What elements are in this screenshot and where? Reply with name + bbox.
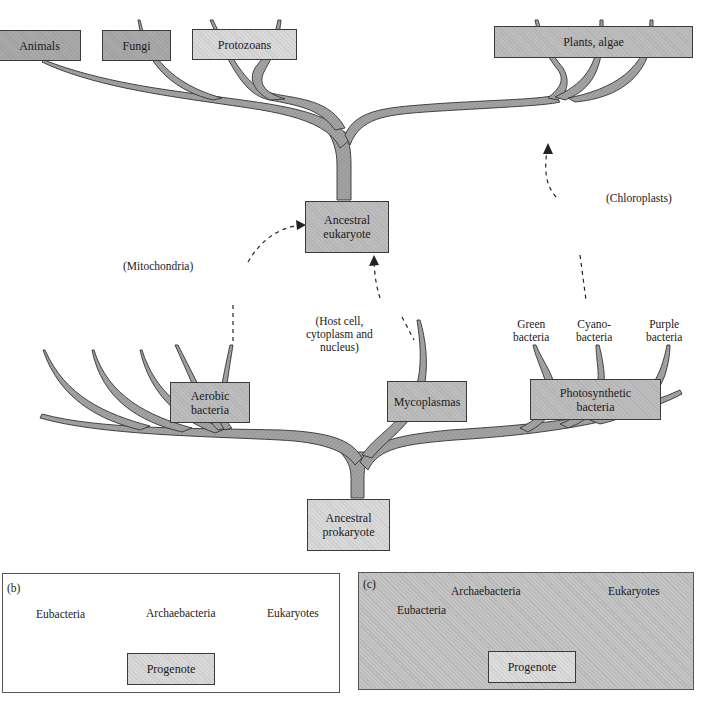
- ancestral-eukaryote-line2: eukaryote: [323, 227, 370, 241]
- host-cell-line1: (Host cell,: [306, 315, 373, 328]
- purple-bacteria-line1: Purple: [646, 318, 682, 331]
- photosynthetic-line2: bacteria: [577, 400, 615, 414]
- photosynthetic-line1: Photosynthetic: [560, 386, 631, 400]
- chloroplasts-label: (Chloroplasts): [606, 192, 672, 205]
- panel-b-tag: (b): [7, 582, 20, 594]
- animals-label: Animals: [19, 39, 60, 53]
- host-cell-line3: nucleus): [306, 341, 373, 354]
- green-bacteria-line2: bacteria: [513, 331, 549, 344]
- box-fungi: Fungi: [102, 30, 171, 61]
- aerobic-line2: bacteria: [191, 403, 229, 417]
- cyanobacteria-line2: bacteria: [576, 331, 612, 344]
- box-protozoans: Protozoans: [192, 29, 297, 60]
- ancestral-prokaryote-line2: prokaryote: [323, 525, 375, 539]
- panel-b-archaebacteria: Archaebacteria: [146, 607, 216, 620]
- panel-b-eubacteria: Eubacteria: [36, 608, 85, 621]
- plants-algae-label: Plants, algae: [563, 35, 624, 49]
- panel-c-archaebacteria: Archaebacteria: [451, 585, 521, 598]
- cyanobacteria-label: Cyano- bacteria: [576, 318, 612, 344]
- protozoans-label: Protozoans: [218, 38, 271, 52]
- panel-b-eukaryotes: Eukaryotes: [267, 607, 319, 620]
- purple-bacteria-label: Purple bacteria: [646, 318, 682, 344]
- box-mycoplasmas: Mycoplasmas: [387, 381, 467, 422]
- cyanobacteria-line1: Cyano-: [576, 318, 612, 331]
- box-animals: Animals: [0, 30, 81, 61]
- panel-b-progenote: Progenote: [127, 653, 215, 685]
- box-photosynthetic-bacteria: Photosynthetic bacteria: [530, 379, 661, 420]
- host-cell-arrowhead: [369, 255, 379, 266]
- mycoplasmas-label: Mycoplasmas: [394, 395, 461, 409]
- aerobic-line1: Aerobic: [191, 389, 230, 403]
- box-ancestral-eukaryote: Ancestral eukaryote: [305, 201, 389, 253]
- endosymbiosis-arrows: [233, 150, 586, 345]
- purple-bacteria-line2: bacteria: [646, 331, 682, 344]
- ancestral-eukaryote-line1: Ancestral: [324, 213, 370, 227]
- chloroplasts-arrow: [546, 150, 556, 197]
- mitochondria-arrow: [248, 225, 300, 262]
- branch-plants: [345, 95, 560, 145]
- ancestral-prokaryote-line1: Ancestral: [326, 511, 372, 525]
- mycoplasma-dash: [402, 317, 414, 340]
- chloroplasts-arrowhead: [543, 143, 553, 154]
- box-plants-algae: Plants, algae: [494, 26, 693, 58]
- box-ancestral-prokaryote: Ancestral prokaryote: [307, 499, 390, 551]
- host-cell-label: (Host cell, cytoplasm and nucleus): [306, 315, 373, 354]
- green-bacteria-label: Green bacteria: [513, 318, 549, 344]
- box-aerobic-bacteria: Aerobic bacteria: [170, 382, 250, 423]
- panel-c-eubacteria: Eubacteria: [397, 604, 446, 617]
- phylogeny-figure: Animals Fungi Protozoans Plants, algae A…: [0, 0, 718, 707]
- panel-b-progenote-label: Progenote: [147, 662, 196, 676]
- panel-c-progenote: Progenote: [488, 651, 576, 683]
- panel-c-progenote-label: Progenote: [508, 660, 557, 674]
- mitochondria-label: (Mitochondria): [123, 260, 193, 273]
- fungi-label: Fungi: [122, 39, 150, 53]
- host-cell-line2: cytoplasm and: [306, 328, 373, 341]
- cyanobacteria-dash: [580, 255, 586, 300]
- green-bacteria-line1: Green: [513, 318, 549, 331]
- host-cell-arrow: [374, 262, 380, 298]
- panel-c-eukaryotes: Eukaryotes: [608, 585, 660, 598]
- panel-c-tag: (c): [363, 578, 376, 590]
